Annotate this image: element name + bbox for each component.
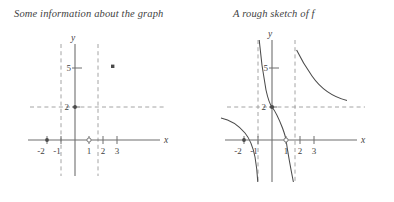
x-tick-label-2: 2 xyxy=(298,146,303,156)
sketch-panel: A rough sketch of f x xyxy=(197,0,394,202)
x-tick-label-1: 1 xyxy=(284,146,289,156)
y-axis-label: y xyxy=(267,29,273,39)
x-tick-label--1: -1 xyxy=(250,146,258,156)
y-tick-label-5: 5 xyxy=(67,63,72,73)
information-panel: Some information about the graph x y xyxy=(0,0,197,202)
point-square-isolated xyxy=(111,65,114,68)
point-filled-x-intercept xyxy=(242,138,246,142)
x-tick-label-2: 2 xyxy=(101,146,106,156)
information-plot-svg: x y -2 -1 1 2 3 2 5 xyxy=(0,0,197,202)
x-tick-label--2: -2 xyxy=(234,146,242,156)
sketch-plot-svg: x y -2 -1 1 2 3 2 5 xyxy=(197,0,394,202)
x-tick-label--2: -2 xyxy=(37,146,45,156)
point-open-hole xyxy=(87,138,91,142)
y-axis-label: y xyxy=(70,33,76,43)
curve-right-branch xyxy=(297,50,347,101)
x-tick-label-3: 3 xyxy=(115,146,120,156)
point-filled-y-intercept xyxy=(270,105,274,109)
point-filled-y-intercept xyxy=(73,105,77,109)
point-open-zero xyxy=(284,138,288,142)
x-axis-label: x xyxy=(163,135,169,145)
y-tick-label-2: 2 xyxy=(65,102,70,112)
x-tick-label-1: 1 xyxy=(87,146,92,156)
sketch-plot: x y -2 -1 1 2 3 2 5 xyxy=(197,0,394,202)
x-tick-label-3: 3 xyxy=(312,146,317,156)
y-tick-label-5: 5 xyxy=(264,63,269,73)
information-plot: x y -2 -1 1 2 3 2 5 xyxy=(0,0,197,202)
figure-container: Some information about the graph x y xyxy=(0,0,394,202)
point-filled-x-intercept xyxy=(45,138,49,142)
y-tick-label-2: 2 xyxy=(262,102,267,112)
x-axis-label: x xyxy=(360,135,366,145)
x-tick-label--1: -1 xyxy=(53,146,61,156)
